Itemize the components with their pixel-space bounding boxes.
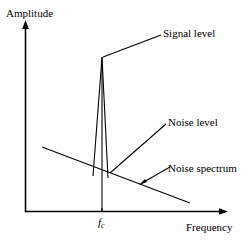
noise-spectrum-line xyxy=(42,147,190,203)
signal-level-leader xyxy=(103,35,161,57)
noise-level-leader xyxy=(110,124,166,173)
figure-root: Amplitude Frequency Signal level Noise l… xyxy=(0,0,249,245)
fc-subscript: c xyxy=(101,221,105,230)
noise-spectrum-arrowhead xyxy=(139,179,147,185)
annotation-noise-spectrum: Noise spectrum xyxy=(168,163,237,174)
y-axis-label: Amplitude xyxy=(6,8,53,19)
x-axis xyxy=(25,208,228,215)
signal-spike xyxy=(93,57,108,178)
x-axis-label: Frequency xyxy=(186,222,232,233)
fc-tick-label: fc xyxy=(98,217,105,230)
annotation-noise-level: Noise level xyxy=(168,117,218,128)
y-axis xyxy=(22,20,29,212)
x-axis-arrowhead xyxy=(219,208,228,215)
noise-spectrum-leader xyxy=(139,167,170,185)
y-axis-arrowhead xyxy=(22,20,29,29)
annotation-signal-level: Signal level xyxy=(163,28,215,39)
